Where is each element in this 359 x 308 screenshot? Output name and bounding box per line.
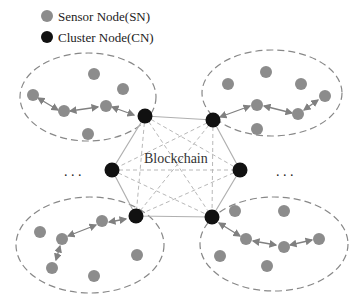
relay-arrow	[264, 106, 292, 113]
diagram: Sensor Node(SN) Cluster Node(CN)	[0, 0, 359, 308]
sensor-node	[278, 205, 290, 217]
relay-arrow	[112, 107, 134, 115]
relay-arrow	[109, 219, 126, 222]
sensor-node	[46, 262, 58, 274]
ellipsis-right: . . .	[276, 164, 294, 179]
sensor-node	[292, 108, 304, 120]
sensor-node	[56, 233, 68, 245]
sensor-node	[34, 226, 46, 238]
cluster-node-legend-label: Cluster Node(CN)	[58, 30, 154, 45]
sensor-node	[58, 105, 70, 117]
sensor-node	[88, 68, 100, 80]
cluster-node-top-left	[138, 109, 153, 124]
sensor-node	[82, 128, 94, 140]
relay-arrow	[219, 223, 240, 236]
relay-arrow	[290, 240, 312, 245]
cluster-node-bottom-left	[129, 209, 144, 224]
cluster-node-bottom-right	[205, 210, 220, 225]
sensor-node	[313, 233, 325, 245]
relay-arrow	[56, 246, 60, 260]
cluster-region-top-left	[20, 53, 156, 141]
relay-arrow	[253, 241, 276, 245]
sensor-node	[319, 90, 331, 102]
sensor-node	[260, 66, 272, 78]
sensor-node	[229, 205, 241, 217]
network-diagram: Sensor Node(SN) Cluster Node(CN)	[0, 0, 359, 308]
sensor-node	[295, 78, 307, 90]
relay-arrow	[68, 225, 96, 236]
sensor-node	[278, 241, 290, 253]
cluster-node-right	[233, 163, 248, 178]
sensor-node	[240, 233, 252, 245]
sensor-node	[214, 250, 226, 262]
cluster-node-legend-icon	[41, 31, 53, 43]
sensor-node	[100, 100, 112, 112]
blockchain-label: Blockchain	[144, 151, 208, 166]
sensor-node	[251, 123, 263, 135]
relay-arrows	[38, 98, 318, 260]
sensor-node	[117, 83, 129, 95]
sensor-node	[222, 78, 234, 90]
relay-arrow	[70, 107, 98, 111]
relay-arrow	[304, 100, 318, 110]
sensor-node	[27, 89, 39, 101]
cluster-node-left	[105, 163, 120, 178]
sensor-node	[88, 270, 100, 282]
legend: Sensor Node(SN) Cluster Node(CN)	[41, 9, 154, 45]
sensor-node-legend-icon	[41, 10, 53, 22]
sensor-node-legend-label: Sensor Node(SN)	[58, 9, 150, 24]
sensor-node	[251, 99, 263, 111]
sensor-node	[261, 260, 273, 272]
sensor-node	[96, 215, 108, 227]
sensor-node	[131, 249, 143, 261]
relay-arrow	[220, 106, 250, 117]
ellipsis-left: . . .	[64, 164, 82, 179]
relay-arrow	[38, 98, 58, 110]
cluster-node-top-right	[206, 113, 221, 128]
